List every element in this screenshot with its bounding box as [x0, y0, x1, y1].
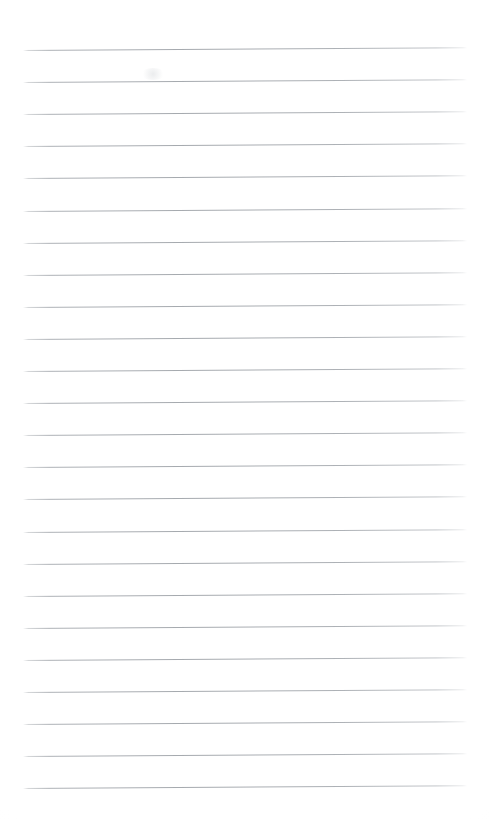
- rule-line: [23, 208, 467, 212]
- rule-line: [23, 400, 467, 404]
- rule-line: [23, 625, 467, 629]
- rule-line: [23, 304, 467, 308]
- rule-line: [23, 753, 467, 757]
- rule-line: [23, 272, 467, 276]
- rule-line: [23, 144, 467, 148]
- rule-line: [23, 689, 467, 693]
- rule-line: [23, 240, 467, 244]
- rule-line: [23, 529, 467, 533]
- rule-line: [23, 497, 467, 501]
- rule-line: [23, 561, 467, 565]
- rule-line: [23, 657, 467, 661]
- rule-line: [23, 368, 467, 372]
- rule-line: [23, 465, 467, 469]
- rule-line: [23, 176, 467, 180]
- rule-line: [23, 336, 467, 340]
- rule-lines-group: [0, 0, 489, 819]
- rule-line: [23, 593, 467, 597]
- rule-line: [23, 79, 467, 83]
- lined-paper-page: [0, 0, 489, 819]
- rule-line: [23, 47, 467, 51]
- rule-line: [23, 432, 467, 436]
- rule-line: [23, 786, 467, 790]
- rule-line: [23, 721, 467, 725]
- rule-line: [23, 111, 467, 115]
